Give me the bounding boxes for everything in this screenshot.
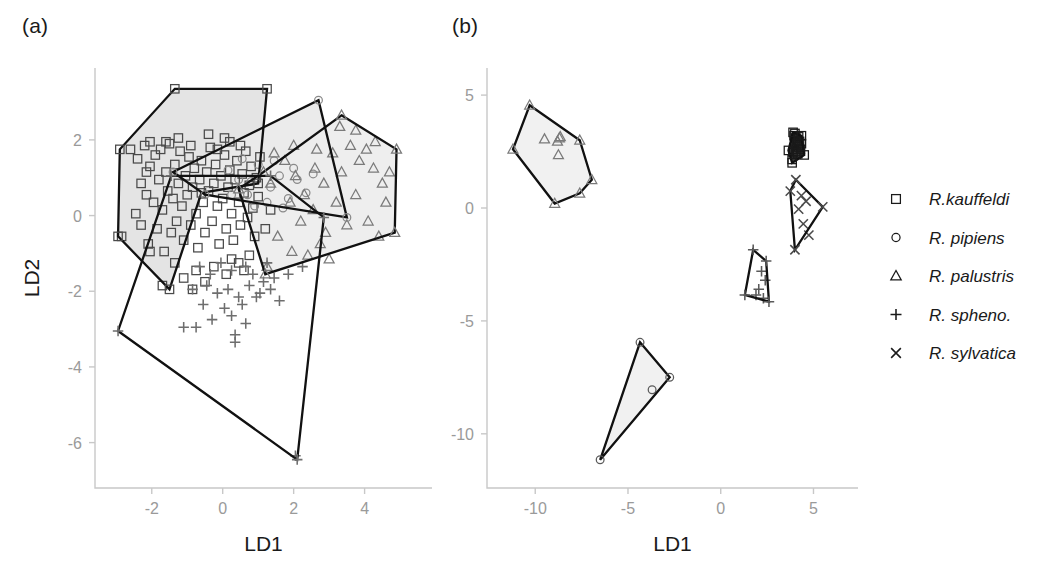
legend-label: R. pipiens bbox=[929, 229, 1005, 248]
point-plus-marker bbox=[244, 280, 255, 291]
y-tick-label: -10 bbox=[451, 426, 474, 443]
points-rspheno bbox=[178, 258, 307, 461]
point-square-marker bbox=[227, 209, 235, 217]
point-square-marker bbox=[245, 251, 253, 259]
point-triangle-marker bbox=[891, 271, 901, 280]
point-square-marker bbox=[201, 228, 209, 236]
point-plus-marker bbox=[265, 284, 276, 295]
legend-label: R. spheno. bbox=[929, 306, 1011, 325]
point-plus-marker bbox=[207, 314, 218, 325]
point-plus-marker bbox=[178, 322, 189, 333]
point-cross-marker bbox=[797, 191, 806, 200]
x-tick-label: 4 bbox=[360, 500, 369, 517]
x-tick-label: -2 bbox=[145, 500, 159, 517]
x-tick-label: 5 bbox=[809, 500, 818, 517]
point-plus-marker bbox=[241, 318, 252, 329]
point-plus-marker bbox=[754, 284, 765, 295]
legend-item-rpalustris[interactable]: R. palustris bbox=[891, 267, 1015, 286]
point-square-marker bbox=[201, 278, 209, 286]
legend: R.kauffeldiR. pipiensR. palustrisR. sphe… bbox=[891, 190, 1016, 363]
y-tick-label: 2 bbox=[73, 132, 82, 149]
figure-root: (a) (b) -202420-2-4-6LD1LD2-10-50550-5-1… bbox=[0, 0, 1051, 565]
x-tick-label: -10 bbox=[524, 500, 547, 517]
x-axis-title: LD1 bbox=[653, 532, 692, 555]
point-plus-marker bbox=[194, 261, 205, 272]
legend-label: R.kauffeldi bbox=[929, 190, 1011, 209]
y-tick-label: 5 bbox=[465, 87, 474, 104]
point-cross-marker bbox=[799, 219, 808, 228]
point-plus-marker bbox=[760, 275, 771, 286]
point-plus-marker bbox=[226, 311, 237, 322]
legend-item-rpipiens[interactable]: R. pipiens bbox=[892, 229, 1005, 248]
point-square-marker bbox=[194, 244, 202, 252]
panel-b-label: (b) bbox=[452, 14, 478, 38]
point-square-marker bbox=[215, 240, 223, 248]
point-plus-marker bbox=[248, 269, 258, 280]
hull-outline bbox=[790, 180, 822, 250]
y-tick-label: -2 bbox=[68, 283, 82, 300]
y-tick-label: -4 bbox=[68, 359, 82, 376]
point-plus-marker bbox=[230, 337, 241, 348]
points-rsylvatica bbox=[794, 191, 813, 240]
x-axis-title: LD1 bbox=[244, 532, 283, 555]
point-plus-marker bbox=[216, 258, 227, 269]
legend-item-rkauffeldi[interactable]: R.kauffeldi bbox=[892, 190, 1011, 209]
legend-item-rsylvatica[interactable]: R. sylvatica bbox=[891, 344, 1016, 363]
x-tick-label: 2 bbox=[289, 500, 298, 517]
point-plus-marker bbox=[201, 280, 212, 291]
point-plus-marker bbox=[274, 295, 285, 306]
y-tick-label: -6 bbox=[68, 435, 82, 452]
point-plus-marker bbox=[198, 299, 209, 310]
point-plus-marker bbox=[223, 284, 234, 295]
y-tick-label: -5 bbox=[460, 313, 474, 330]
point-plus-marker bbox=[212, 288, 223, 299]
chart-panel-panel-b: -10-50550-5-10LD1 bbox=[451, 68, 858, 555]
legend-item-rspheno[interactable]: R. spheno. bbox=[891, 306, 1012, 325]
x-tick-label: -5 bbox=[621, 500, 635, 517]
point-square-marker bbox=[892, 195, 901, 204]
point-plus-marker bbox=[283, 269, 294, 280]
x-tick-label: 0 bbox=[716, 500, 725, 517]
y-tick-label: 0 bbox=[73, 208, 82, 225]
point-plus-marker bbox=[241, 261, 252, 272]
point-plus-marker bbox=[740, 290, 751, 301]
point-plus-marker bbox=[891, 309, 902, 320]
point-cross-marker bbox=[891, 348, 901, 358]
point-square-marker bbox=[229, 236, 237, 244]
legend-label: R. palustris bbox=[929, 267, 1015, 286]
point-cross-marker bbox=[791, 175, 800, 184]
hull-rspheno bbox=[740, 245, 775, 307]
y-tick-label: 0 bbox=[465, 200, 474, 217]
point-square-marker bbox=[222, 225, 230, 233]
panel-a-label: (a) bbox=[22, 14, 48, 38]
chart-panel-panel-a: -202420-2-4-6LD1LD2 bbox=[20, 68, 432, 555]
hull-rsylvatica bbox=[786, 175, 828, 254]
point-plus-marker bbox=[219, 303, 230, 314]
y-axis-title: LD2 bbox=[20, 259, 43, 298]
scatter-plot-canvas: -202420-2-4-6LD1LD2-10-50550-5-10LD1R.ka… bbox=[0, 0, 1051, 565]
point-square-marker bbox=[179, 274, 187, 282]
point-square-marker bbox=[208, 217, 216, 225]
point-square-marker bbox=[222, 270, 230, 278]
point-circle-marker bbox=[892, 233, 900, 241]
point-plus-marker bbox=[191, 322, 202, 333]
point-cross-marker bbox=[794, 205, 803, 214]
point-cross-marker bbox=[818, 202, 827, 211]
x-tick-label: 0 bbox=[218, 500, 227, 517]
point-plus-marker bbox=[756, 266, 767, 277]
legend-label: R. sylvatica bbox=[929, 344, 1016, 363]
